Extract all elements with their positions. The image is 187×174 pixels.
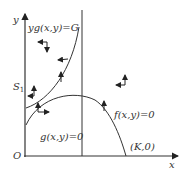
origin-label: O — [13, 150, 21, 161]
g-label: g(x,y)=0 — [40, 131, 84, 142]
f-label: f(x,y)=0 — [113, 109, 155, 120]
f-curve — [26, 95, 126, 156]
y-axis-label: y — [12, 14, 19, 25]
k-point-label: (K,0) — [130, 141, 155, 152]
direction-arrows — [28, 42, 125, 112]
x-axis-label: x — [169, 159, 175, 170]
yg-label: yg(x,y)=G — [27, 22, 79, 33]
s1-label: S1 — [13, 81, 24, 94]
phase-diagram: y x O yg(x,y)=G f(x,y)=0 g(x,y)=0 S1 (K,… — [0, 0, 187, 174]
